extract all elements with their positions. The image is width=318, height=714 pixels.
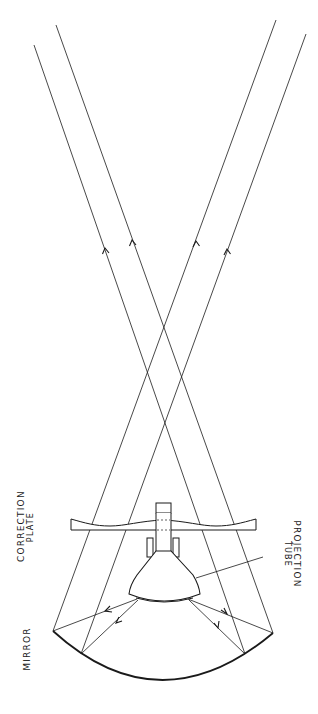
projection-tube-label-line1: Projection [292,519,302,589]
incident-rays [53,599,273,654]
incident-ray-2 [81,600,138,654]
correction-plate-label-line2: Plate [26,492,36,562]
yoke-left [147,538,153,557]
incident-ray-4 [188,599,273,633]
exit-ray-2 [81,34,306,654]
correction-plate-label: Correction Plate [16,492,38,562]
correction-plate-label-line1: Correction [16,492,26,562]
mirror-label: Mirror [22,624,34,674]
arrow-down-icon [116,617,122,623]
down-arrows [105,606,227,628]
arrow-up-icon [130,240,137,246]
projection-tube-label: Projection Tube [278,519,302,589]
mirror-label-text: Mirror [22,624,32,674]
tube-neck-cap [156,503,171,513]
exit-ray-3 [34,45,245,654]
projection-tube-label-line2: Tube [282,519,292,589]
incident-ray-1 [53,599,137,631]
projection-tube-leader [196,557,263,578]
arrow-up-icon [193,241,200,247]
projection-tube-bulb [129,551,200,601]
arrow-down-icon [214,621,219,628]
up-arrows [103,240,231,255]
tube-neck [156,513,171,551]
optical-diagram [0,0,318,714]
